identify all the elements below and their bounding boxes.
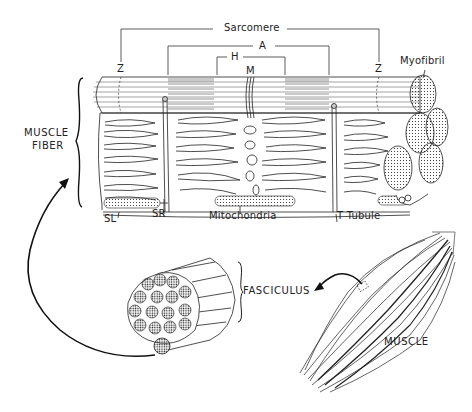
muscle-fiber-brace	[76, 78, 83, 207]
sr-network-right	[344, 120, 388, 194]
mitochondria	[104, 196, 408, 208]
label-muscle: MUSCLE	[384, 337, 429, 347]
muscle-structure-diagram: Sarcomere A H M Z Z Myofibril MUSCLE FIB…	[0, 0, 472, 412]
sr-network-middle	[176, 117, 326, 195]
label-a-band: A	[259, 41, 266, 51]
label-sarcomere: Sarcomere	[224, 23, 280, 33]
label-mitochondria: Mitochondria	[209, 211, 277, 221]
label-h-zone: H	[231, 52, 239, 62]
sr-network-left	[104, 120, 158, 200]
label-t-tubule: T Tubule	[337, 211, 380, 221]
label-m-line: M	[246, 66, 255, 76]
label-myofibril: Myofibril	[400, 56, 445, 66]
label-sr: SR	[152, 209, 166, 219]
myofibril-cylinder	[96, 77, 420, 113]
label-fasciculus: FASCICULUS	[243, 286, 310, 296]
label-muscle-fiber-line2: FIBER	[32, 141, 64, 151]
label-z-left: Z	[117, 64, 124, 74]
label-muscle-fiber-line1: MUSCLE	[24, 128, 69, 138]
fasciculus-bundle	[128, 258, 235, 354]
whole-muscle	[300, 232, 455, 392]
label-sl: SL	[104, 214, 116, 224]
label-z-right: Z	[375, 64, 382, 74]
